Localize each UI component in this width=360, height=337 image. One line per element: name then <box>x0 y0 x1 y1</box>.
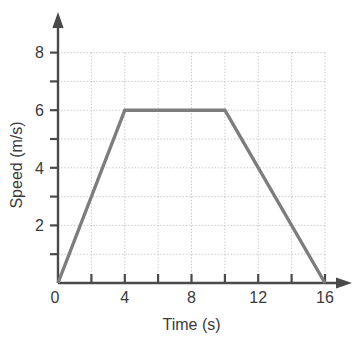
x-axis-arrow-icon <box>336 278 352 289</box>
y-axis-arrow-icon <box>52 12 63 28</box>
x-tick-label-16: 16 <box>316 289 334 306</box>
chart-canvas: 8 6 4 2 0 4 8 12 16 Time (s) Speed (m/s) <box>0 0 360 337</box>
axes <box>50 12 352 288</box>
x-tick-label-4: 4 <box>120 289 129 306</box>
y-tick-label-8: 8 <box>35 44 44 61</box>
y-tick-label-6: 6 <box>35 102 44 119</box>
x-tick-label-12: 12 <box>249 289 267 306</box>
x-tick-label-8: 8 <box>187 289 196 306</box>
y-tick-label-4: 4 <box>35 160 44 177</box>
y-axis-title: Speed (m/s) <box>8 121 25 208</box>
x-axis-ticks <box>91 274 325 283</box>
x-tick-label-0: 0 <box>51 289 60 306</box>
y-tick-labels: 8 6 4 2 <box>35 44 44 234</box>
y-tick-label-2: 2 <box>35 217 44 234</box>
x-tick-labels: 0 4 8 12 16 <box>51 289 334 306</box>
grid-lines <box>58 53 325 283</box>
speed-time-graph: 8 6 4 2 0 4 8 12 16 Time (s) Speed (m/s) <box>0 0 360 337</box>
x-axis-title: Time (s) <box>162 316 220 333</box>
